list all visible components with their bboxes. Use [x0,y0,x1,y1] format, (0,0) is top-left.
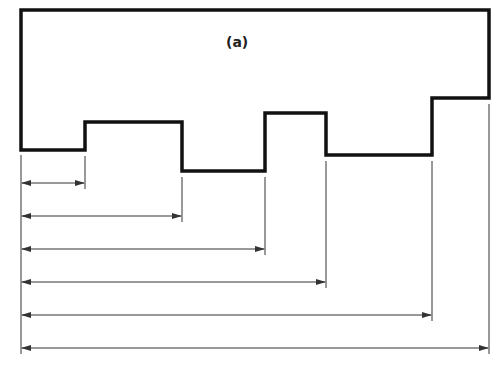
dimension-lines [22,104,489,354]
stepped-outline [21,10,489,171]
figure-label: (a) [226,34,248,50]
stepped-profile-diagram [0,0,500,368]
